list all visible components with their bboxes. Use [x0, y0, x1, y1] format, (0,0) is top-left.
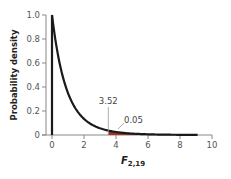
- x-axis: 0246810: [42, 135, 217, 150]
- y-tick-label: 0.6: [26, 58, 40, 68]
- y-axis: 00.20.40.60.81.0: [26, 10, 46, 140]
- x-tick-label: 0: [49, 140, 54, 150]
- y-axis-title: Probability density: [9, 29, 19, 120]
- y-tick-label: 0.4: [26, 82, 40, 92]
- x-tick-label: 4: [113, 140, 118, 150]
- y-tick-label: 0.8: [26, 34, 40, 44]
- y-tick-label: 0: [35, 130, 40, 140]
- x-tick-label: 2: [81, 140, 86, 150]
- x-tick-label: 8: [177, 140, 182, 150]
- y-tick-label: 0.2: [26, 106, 40, 116]
- x-axis-title-subscript: 2,19: [128, 160, 145, 168]
- shaded-area-label: 0.05: [124, 115, 143, 125]
- x-axis-title: F2,19: [121, 155, 145, 168]
- y-tick-label: 1.0: [26, 10, 40, 20]
- x-tick-label: 6: [145, 140, 150, 150]
- f-distribution-chart: Probability density 00.20.40.60.81.0 024…: [0, 0, 231, 179]
- x-tick-label: 10: [207, 140, 218, 150]
- critical-value-label: 3.52: [99, 96, 118, 106]
